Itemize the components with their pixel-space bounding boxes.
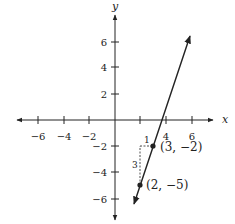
x-tick-label: −4 — [57, 131, 72, 142]
y-tick-label: 6 — [101, 37, 107, 48]
y-tick-label: 4 — [101, 62, 107, 73]
y-tick-label: 2 — [101, 89, 107, 100]
y-tick-label: −6 — [92, 194, 107, 205]
y-tick-label: −4 — [92, 167, 107, 178]
y-axis-label: y — [111, 0, 119, 13]
y-tick-label: −2 — [92, 141, 107, 152]
point-label: (2, −5) — [146, 178, 188, 192]
x-tick-label: −6 — [31, 131, 46, 142]
run-label: 1 — [144, 135, 150, 145]
rise-label: 3 — [132, 160, 138, 170]
point-2-neg5 — [137, 182, 142, 187]
x-axis-label: x — [222, 113, 229, 126]
point-label: (3, −2) — [160, 140, 202, 154]
coordinate-plane: −6 −4 −2 4 6 6 4 2 −2 −4 −6 x y 1 3 (3, … — [0, 0, 235, 224]
point-3-neg2 — [150, 143, 155, 148]
